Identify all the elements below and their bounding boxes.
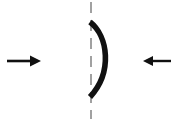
diagram-svg xyxy=(0,0,183,121)
figure-canvas: Concave surface with opposing horizontal… xyxy=(0,0,183,121)
